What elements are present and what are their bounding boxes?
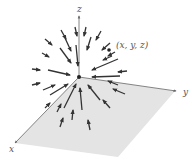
field-arrow [61,30,66,39]
y-axis-label: y [182,87,189,97]
field-arrow [32,69,40,70]
z-axis-label: z [76,4,82,14]
field-arrow [45,39,52,45]
field-arrow [48,70,70,75]
field-arrow [87,37,91,50]
field-arrow [43,85,55,90]
xyz-point [107,48,111,52]
field-arrow [92,59,118,70]
field-arrow [60,48,71,63]
vector-field-svg: z y x (x, y, z) [0,0,196,160]
field-arrow [32,83,40,85]
x-axis-label: x [9,144,14,154]
field-arrow [92,76,120,77]
field-arrow [65,38,71,51]
field-arrow [76,45,78,66]
origin-point [77,75,81,79]
field-arrow [42,53,49,57]
field-arrow [75,27,77,36]
field-arrow [108,52,115,56]
vector-field-figure: z y x (x, y, z) [0,0,196,160]
field-arrow [84,27,86,36]
field-arrow [103,56,112,60]
xy-plane [15,77,175,157]
point-label: (x, y, z) [116,40,149,50]
field-arrow [96,31,101,40]
field-arrow [118,71,127,72]
